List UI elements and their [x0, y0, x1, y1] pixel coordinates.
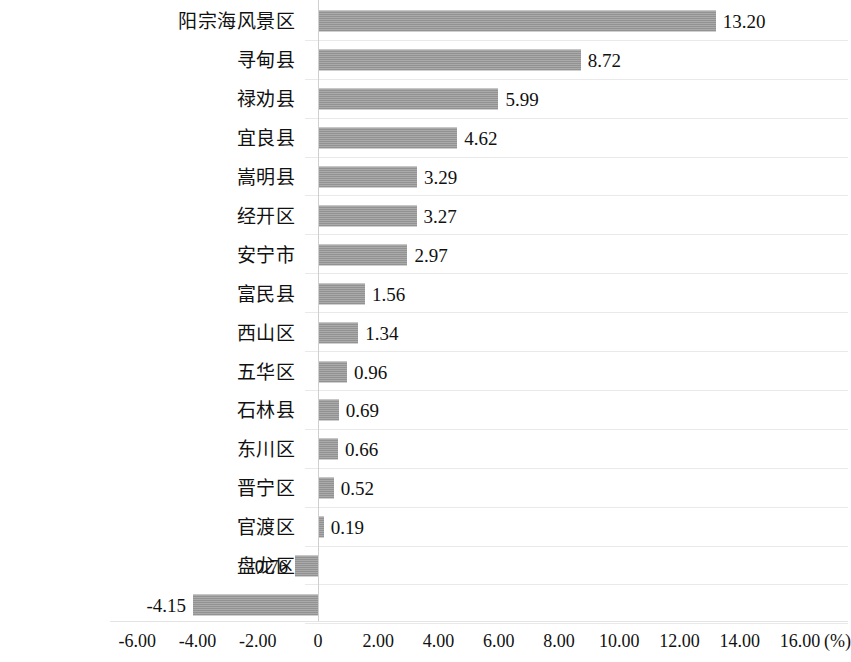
chart-row: 富民县1.56 — [0, 274, 848, 313]
bar-value-label: 3.27 — [424, 206, 457, 225]
bar — [295, 556, 318, 577]
category-label: 东川区 — [237, 440, 296, 459]
bar — [318, 89, 498, 110]
x-axis-tick-label: 6.00 — [483, 632, 515, 650]
chart-row: 西山区1.34 — [0, 313, 848, 352]
gridline — [305, 623, 848, 624]
bottom-axis-line — [110, 621, 848, 622]
bar — [318, 244, 407, 265]
chart-row: 禄劝县5.99 — [0, 80, 848, 119]
category-label: 五华区 — [237, 362, 296, 381]
category-label: 禄劝县 — [237, 90, 296, 109]
bar — [318, 361, 347, 382]
chart-row: 嵩明县3.29 — [0, 158, 848, 197]
bar — [318, 128, 457, 149]
chart-row: 盘龙区-0.76 — [0, 547, 848, 586]
category-label: 西山区 — [237, 323, 296, 342]
category-label: 官渡区 — [237, 518, 296, 537]
bar — [318, 439, 338, 460]
bar — [318, 50, 581, 71]
bar — [318, 205, 417, 226]
bar-value-label: -0.76 — [249, 557, 289, 576]
x-axis-tick-label: -4.00 — [179, 632, 217, 650]
bar — [318, 283, 365, 304]
category-label: 富民县 — [237, 284, 296, 303]
chart-row: 寻甸县8.72 — [0, 41, 848, 80]
bar-value-label: 1.34 — [365, 323, 398, 342]
x-axis-tick-label: 4.00 — [423, 632, 455, 650]
bar-value-label: 3.29 — [424, 168, 457, 187]
category-label: 嵩明县 — [237, 168, 296, 187]
x-axis-tick-label: -2.00 — [239, 632, 277, 650]
category-label: 阳宗海风景区 — [178, 12, 295, 31]
chart-plot-area: 阳宗海风景区13.20寻甸县8.72禄劝县5.99宜良县4.62嵩明县3.29经… — [0, 0, 848, 622]
x-axis-unit-label: (%) — [824, 632, 851, 650]
bar — [318, 400, 339, 421]
bar-value-label: 8.72 — [588, 51, 621, 70]
x-axis-tick-label: 16.00 — [780, 632, 821, 650]
category-label: 安宁市 — [237, 245, 296, 264]
category-label: 宜良县 — [237, 129, 296, 148]
bar-value-label: 0.69 — [346, 401, 379, 420]
chart-row: 石林县0.69 — [0, 391, 848, 430]
zero-axis-line — [318, 0, 319, 622]
bar — [193, 594, 318, 615]
chart-row: 经开区3.27 — [0, 197, 848, 236]
category-label: 石林县 — [237, 401, 296, 420]
x-axis-tick-label: -6.00 — [119, 632, 157, 650]
x-axis-tick-label: 2.00 — [363, 632, 395, 650]
bar-value-label: 4.62 — [464, 129, 497, 148]
chart-row: 官渡区0.19 — [0, 508, 848, 547]
chart-row: 呈贡区-4.15 — [0, 586, 848, 625]
category-label: 经开区 — [237, 206, 296, 225]
x-axis-tick-label: 8.00 — [543, 632, 575, 650]
bar-value-label: 5.99 — [505, 90, 538, 109]
bar-value-label: -4.15 — [146, 595, 186, 614]
bar-value-label: 0.19 — [331, 518, 364, 537]
bar-value-label: 0.66 — [345, 440, 378, 459]
x-axis-tick-label: 10.00 — [599, 632, 640, 650]
bar-value-label: 13.20 — [723, 12, 766, 31]
bar-value-label: 2.97 — [414, 245, 447, 264]
bar-value-label: 0.52 — [341, 479, 374, 498]
chart-row: 阳宗海风景区13.20 — [0, 2, 848, 41]
chart-row: 五华区0.96 — [0, 352, 848, 391]
chart-row: 东川区0.66 — [0, 430, 848, 469]
bar — [318, 11, 716, 32]
x-axis-tick-label: 0 — [314, 632, 323, 650]
x-axis-tick-label: 12.00 — [659, 632, 700, 650]
bar-value-label: 1.56 — [372, 284, 405, 303]
category-label: 寻甸县 — [237, 51, 296, 70]
bar — [318, 167, 417, 188]
category-label: 晋宁区 — [237, 479, 296, 498]
chart-row: 晋宁区0.52 — [0, 469, 848, 508]
chart-row: 安宁市2.97 — [0, 235, 848, 274]
bar — [318, 322, 358, 343]
x-axis: -6.00-4.00-2.0002.004.006.008.0010.0012.… — [0, 626, 848, 662]
chart-row: 宜良县4.62 — [0, 119, 848, 158]
bar — [318, 478, 334, 499]
bar-value-label: 0.96 — [354, 362, 387, 381]
x-axis-tick-label: 14.00 — [720, 632, 761, 650]
